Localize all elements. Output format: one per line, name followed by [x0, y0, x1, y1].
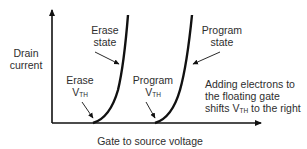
program-vth-symbol: VTH — [129, 86, 177, 101]
annotation-line3: shifts VTH to the right — [205, 102, 301, 117]
erase-state-label-line1: Erase — [85, 24, 125, 36]
erase-state-label: Erase state — [85, 24, 125, 48]
program-vth-pointer-arrow — [146, 102, 155, 118]
erase-vth-label-line1: Erase — [62, 74, 98, 86]
program-vth-label-line1: Program — [129, 74, 177, 86]
program-state-label: Program state — [198, 24, 246, 48]
x-axis-label: Gate to source voltage — [70, 135, 230, 147]
erase-vth-symbol: VTH — [62, 86, 98, 101]
erase-vth-label: Erase VTH — [62, 74, 98, 101]
erase-state-label-line2: state — [85, 36, 125, 48]
annotation-line2: the floating gate — [205, 90, 301, 102]
program-state-curve — [155, 15, 192, 123]
y-axis-label-line2: current — [4, 59, 48, 71]
program-vth-label: Program VTH — [129, 74, 177, 101]
shift-annotation: Adding electrons to the floating gate sh… — [205, 78, 301, 117]
program-state-pointer-arrow — [193, 52, 220, 64]
erase-state-pointer-arrow — [95, 52, 119, 64]
y-axis-label-line1: Drain — [4, 47, 48, 59]
y-axis-label: Drain current — [4, 47, 48, 71]
erase-vth-pointer-arrow — [82, 102, 93, 118]
program-state-label-line2: state — [198, 36, 246, 48]
program-state-label-line1: Program — [198, 24, 246, 36]
annotation-line1: Adding electrons to — [205, 78, 301, 90]
